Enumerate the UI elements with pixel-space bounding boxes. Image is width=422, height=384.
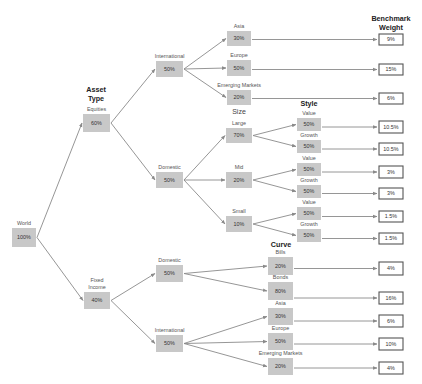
edge-mid-to-mid-growth	[253, 180, 296, 192]
benchmark-value: 4%	[387, 365, 395, 371]
benchmark-weight-box: 3%	[379, 166, 403, 178]
benchmark-value: 10%	[386, 341, 397, 347]
node-eq-domestic: 50%Domestic	[156, 164, 183, 188]
node-label: Emerging Markets	[217, 82, 261, 88]
benchmark-weight-box: 4%	[379, 362, 403, 374]
edge-large-to-large-growth	[253, 136, 296, 147]
heading-style: Style	[300, 99, 317, 108]
node-value: 20%	[234, 94, 245, 100]
node-label: Growth	[300, 177, 317, 183]
node-label: Growth	[300, 132, 317, 138]
node-value: 10%	[234, 221, 245, 227]
edge-equities-to-eq-international	[111, 69, 155, 123]
node-value: 60%	[91, 120, 102, 126]
heading-curve: Curve	[271, 240, 291, 249]
node-fi-europe: 50%Europe	[268, 325, 293, 350]
benchmark-weight-box: 1.5%	[379, 233, 403, 244]
benchmark-weight-box: 9%	[379, 34, 403, 45]
node-label: Value	[302, 155, 315, 161]
benchmark-weight-box: 6%	[379, 315, 403, 327]
node-label: Mid	[235, 164, 244, 170]
heading-asset-type: Type	[88, 94, 104, 103]
benchmark-weight-box: 10%	[379, 338, 403, 350]
node-large-value: 50%Value	[297, 110, 321, 131]
benchmark-value: 4%	[387, 265, 395, 271]
node-value: 50%	[164, 66, 175, 72]
edge-small-to-small-value	[253, 214, 296, 225]
benchmark-value: 1.5%	[385, 235, 397, 241]
edge-eq-domestic-to-small	[184, 180, 225, 224]
node-label: Asia	[275, 300, 286, 306]
node-label: Income	[88, 284, 106, 290]
node-fi-domestic: 50%Domestic	[156, 257, 183, 282]
node-eq-europe: 50%Europe	[227, 52, 251, 76]
benchmark-value: 15%	[386, 66, 397, 72]
edge-world-to-equities	[37, 123, 82, 238]
node-bills: 20%Bills	[268, 249, 293, 275]
benchmark-value: 9%	[387, 36, 395, 42]
edge-large-to-large-value	[253, 125, 296, 136]
nodes-layer: 100%World60%Equities40%FixedIncome50%Int…	[12, 23, 321, 375]
node-world: 100%World	[12, 220, 36, 247]
node-mid-value: 50%Value	[297, 155, 321, 176]
node-label: Equities	[87, 106, 106, 112]
edge-fi-domestic-to-bonds	[184, 274, 267, 292]
edge-eq-international-to-eq-asia	[184, 39, 226, 70]
node-label: Growth	[300, 221, 317, 227]
node-label: Europe	[272, 325, 289, 331]
node-fi-asia: 30%Asia	[268, 300, 293, 325]
node-value: 50%	[304, 232, 315, 238]
edge-fi-international-to-fi-asia	[184, 317, 267, 344]
benchmark-weight-box: 1.5%	[379, 211, 403, 222]
benchmark-weight-box: 6%	[379, 93, 403, 104]
edge-world-to-fixed-income	[37, 238, 83, 301]
node-value: 20%	[275, 263, 286, 269]
node-label: Emerging Markets	[259, 350, 303, 356]
node-equities: 60%Equities	[83, 106, 110, 132]
node-small: 10%Small	[226, 208, 252, 232]
node-value: 20%	[275, 363, 286, 369]
node-large-growth: 50%Growth	[297, 132, 321, 153]
node-value: 30%	[234, 35, 245, 41]
node-value: 30%	[275, 313, 286, 319]
edge-fi-domestic-to-bills	[184, 266, 267, 274]
heading-benchmark-weight: Weight	[379, 23, 403, 32]
node-value: 40%	[92, 297, 103, 303]
node-eq-emerging: 20%Emerging Markets	[217, 82, 261, 105]
node-label: Large	[232, 120, 246, 126]
node-fi-emerging: 20%Emerging Markets	[259, 350, 303, 375]
benchmark-weight-box: 4%	[379, 262, 403, 275]
node-fixed-income: 40%FixedIncome	[84, 277, 110, 309]
benchmark-weight-box: 15%	[379, 64, 403, 75]
benchmark-value: 10.5%	[383, 124, 398, 130]
node-value: 100%	[17, 234, 31, 240]
node-eq-asia: 30%Asia	[227, 23, 251, 46]
benchmark-value: 16%	[386, 295, 397, 301]
benchmark-value: 10.5%	[383, 146, 398, 152]
node-mid: 20%Mid	[226, 164, 252, 188]
node-value: 50%	[304, 143, 315, 149]
benchmark-weight-box: 10.5%	[379, 143, 403, 155]
edge-fixed-income-to-fi-international	[111, 301, 155, 344]
benchmark-value: 3%	[387, 169, 395, 175]
edge-mid-to-mid-value	[253, 170, 296, 181]
benchmark-value: 3%	[387, 190, 395, 196]
node-label: International	[155, 53, 185, 59]
node-label: Small	[232, 208, 245, 214]
benchmark-value: 1.5%	[385, 213, 397, 219]
node-value: 50%	[164, 270, 175, 276]
node-mid-growth: 50%Growth	[297, 177, 321, 198]
node-label: Europe	[230, 52, 247, 58]
node-value: 50%	[304, 188, 315, 194]
node-value: 50%	[164, 340, 175, 346]
node-small-value: 50%Value	[297, 199, 321, 220]
benchmark-value: 6%	[387, 318, 395, 324]
heading-size: Size	[232, 108, 246, 115]
node-value: 20%	[234, 177, 245, 183]
edge-fixed-income-to-fi-domestic	[111, 274, 155, 301]
node-bonds: 80%Bonds	[268, 274, 293, 300]
portfolio-tree-diagram: 100%World60%Equities40%FixedIncome50%Int…	[0, 0, 422, 384]
node-value: 50%	[234, 65, 245, 71]
node-label: Value	[302, 110, 315, 116]
node-value: 50%	[164, 177, 175, 183]
